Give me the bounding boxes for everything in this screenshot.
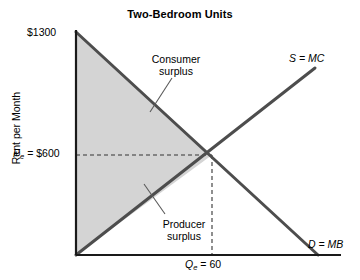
supply-curve-label: S = MC — [289, 52, 324, 64]
consumer-surplus-line2: surplus — [159, 65, 193, 77]
producer-surplus-line1: Producer — [163, 218, 206, 230]
equilibrium-quantity-label: Qe = 60 — [185, 258, 221, 271]
demand-curve-label: D = MB — [308, 238, 343, 250]
qe-value: = 60 — [200, 258, 221, 270]
pe-value: = $600 — [27, 147, 59, 159]
producer-surplus-label: Producer surplus — [146, 218, 222, 242]
producer-surplus-line2: surplus — [167, 230, 201, 242]
pe-subscript: e — [20, 152, 24, 161]
equilibrium-price-label: Pe = $600 — [13, 147, 60, 160]
qe-subscript: e — [193, 263, 197, 272]
consumer-surplus-label: Consumer surplus — [138, 53, 214, 77]
pe-symbol: P — [13, 147, 20, 159]
chart-canvas: Two-Bedroom Units Rent per Month $1300 P… — [0, 0, 360, 280]
y-axis-tick-1300: $1300 — [27, 26, 56, 38]
y-axis-title: Rent per Month — [10, 68, 22, 188]
consumer-surplus-line1: Consumer — [152, 53, 200, 65]
page-title: Two-Bedroom Units — [0, 8, 360, 21]
consumer-surplus-leader-line — [150, 78, 172, 112]
qe-symbol: Q — [185, 258, 193, 270]
